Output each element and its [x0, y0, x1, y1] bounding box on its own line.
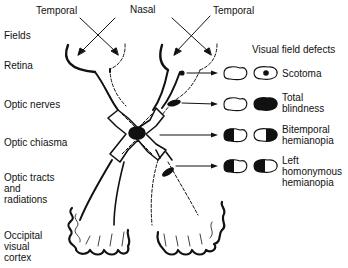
label-bitemporal-hemianopia: Bitemporal hemianopia [282, 124, 334, 146]
label-temporal-left: Temporal [36, 5, 77, 16]
left-occipital-cortex [68, 208, 129, 255]
right-occipital-cortex [157, 202, 224, 255]
pointer-arrows [160, 71, 218, 169]
left-field-arrows [78, 18, 118, 55]
label-optic-nerves: Optic nerves [4, 99, 60, 110]
label-visual-field-defects: Visual field defects [252, 44, 335, 55]
field-icons-total-blindness [224, 98, 277, 111]
left-optic-tract [80, 160, 124, 225]
label-occipital-cortex: Occipital visual cortex [4, 230, 42, 263]
label-optic-chiasma: Optic chiasma [4, 137, 67, 148]
left-optic-nerve [95, 69, 126, 110]
right-field-arrows [172, 16, 211, 55]
right-optic-nerve [153, 70, 200, 115]
label-optic-tracts: Optic tracts and radiations [4, 172, 55, 205]
label-temporal-right: Temporal [213, 5, 254, 16]
label-nasal: Nasal [130, 4, 156, 15]
label-left-homonymous-hemianopia: Left homonymous hemianopia [282, 155, 342, 188]
field-icons-left-homonymous [224, 159, 277, 172]
field-icons-bitemporal [224, 128, 277, 141]
label-total-blindness: Total blindness [282, 92, 324, 114]
field-icons-scotoma [224, 67, 277, 80]
label-retina: Retina [4, 60, 33, 71]
label-fields: Fields [4, 30, 31, 41]
label-scotoma: Scotoma [282, 68, 321, 79]
scotoma-lesion [179, 70, 184, 75]
right-optic-tract [151, 150, 198, 225]
